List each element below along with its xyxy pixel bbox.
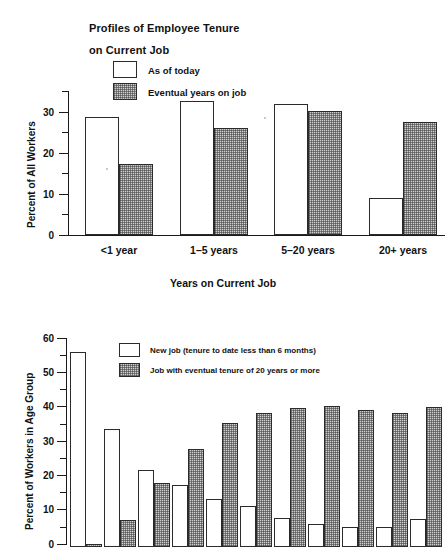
bar-long-tenure-2 [120,520,136,547]
x-axis-line-top [68,235,445,236]
y-tick-20 [59,153,69,154]
y-tick-b-minor-35 [60,424,67,425]
bar-as-of-today-5to20years [274,104,308,235]
y-ticklabel-30: 30 [28,108,54,118]
bar-eventual-lt1year [119,164,153,235]
y-tick-b-minor-5 [60,527,67,528]
bar-new-job-9 [342,527,358,547]
y-tick-b-minor-55 [60,355,67,356]
y-ticklabel-b-40: 40 [30,402,54,412]
y-tick-b-40 [57,406,67,407]
y-tick-b-minor-25 [60,458,67,459]
legend-swatch-new-job [119,343,140,357]
y-tick-b-0 [57,544,67,545]
bar-eventual-1to5years [214,128,248,235]
chart-employee-tenure: Profiles of Employee Tenure on Current J… [0,0,446,300]
scan-speck [264,117,266,119]
y-tick-minor-5 [62,214,69,215]
y-tick-b-minor-45 [60,389,67,390]
bar-long-tenure-11 [426,407,442,547]
bar-new-job-5 [206,499,222,547]
bar-eventual-20plusyears [403,122,437,235]
y-tick-0 [59,235,69,236]
bar-new-job-7 [274,518,290,547]
legend-label-eventual-years: Eventual years on job [148,87,246,98]
scan-speck [106,168,108,170]
y-tick-10 [59,194,69,195]
y-ticklabel-b-30: 30 [30,437,54,447]
bar-as-of-today-lt1year [85,117,119,235]
y-ticklabel-b-50: 50 [30,368,54,378]
y-ticklabel-b-20: 20 [30,471,54,481]
chart-title-line-1: Profiles of Employee Tenure [89,22,239,34]
y-tick-b-10 [57,509,67,510]
bar-new-job-11 [410,519,426,547]
y-tick-minor-15 [62,173,69,174]
legend-swatch-as-of-today [113,61,137,78]
chart-title-line-2: on Current Job [89,44,169,56]
legend-swatch-long-tenure [119,363,140,377]
y-ticklabel-b-0: 0 [30,540,54,550]
y-tick-minor-25 [62,132,69,133]
y-tick-b-20 [57,475,67,476]
bar-long-tenure-6 [256,413,272,547]
bar-new-job-8 [308,524,324,547]
bar-as-of-today-1to5years [180,101,214,235]
y-tick-minor-35 [62,91,69,92]
bar-new-job-3 [138,470,154,547]
y-ticklabel-0: 0 [28,231,54,241]
bar-long-tenure-3 [154,483,170,547]
bar-new-job-2 [104,429,120,547]
y-tick-b-30 [57,441,67,442]
bar-as-of-today-20plusyears [369,198,403,235]
y-tick-b-60 [57,338,67,339]
y-tick-b-50 [57,372,67,373]
y-tick-b-minor-15 [60,492,67,493]
chart-new-job-by-age: Percent of Workers in Age Group 0 10 20 … [0,330,446,547]
bar-long-tenure-5 [222,423,238,547]
x-axis-title-top: Years on Current Job [0,277,446,289]
legend-label-new-job: New job (tenure to date less than 6 mont… [150,346,316,355]
bar-long-tenure-7 [290,408,306,547]
y-ticklabel-10: 10 [28,190,54,200]
bar-new-job-1 [70,352,86,547]
legend-label-as-of-today: As of today [148,65,200,76]
x-category-1to5years: 1–5 years [164,244,264,256]
y-axis-title-top: Percent of All Workers [26,121,37,228]
bar-long-tenure-10 [392,413,408,547]
legend-swatch-eventual-years [113,83,137,100]
bar-long-tenure-1 [86,544,102,547]
y-tick-30 [59,112,69,113]
bar-eventual-5to20years [308,111,342,235]
x-category-lt1year: <1 year [69,244,169,256]
x-category-5to20years: 5–20 years [258,244,358,256]
legend-label-long-tenure: Job with eventual tenure of 20 years or … [150,366,320,375]
x-category-20plusyears: 20+ years [353,244,446,256]
y-ticklabel-20: 20 [28,149,54,159]
y-ticklabel-b-10: 10 [30,505,54,515]
bar-long-tenure-8 [324,406,340,547]
bar-new-job-6 [240,506,256,547]
bar-long-tenure-9 [358,410,374,547]
bar-new-job-4 [172,485,188,547]
bar-long-tenure-4 [188,449,204,547]
y-ticklabel-b-60: 60 [30,334,54,344]
bar-new-job-10 [376,527,392,547]
